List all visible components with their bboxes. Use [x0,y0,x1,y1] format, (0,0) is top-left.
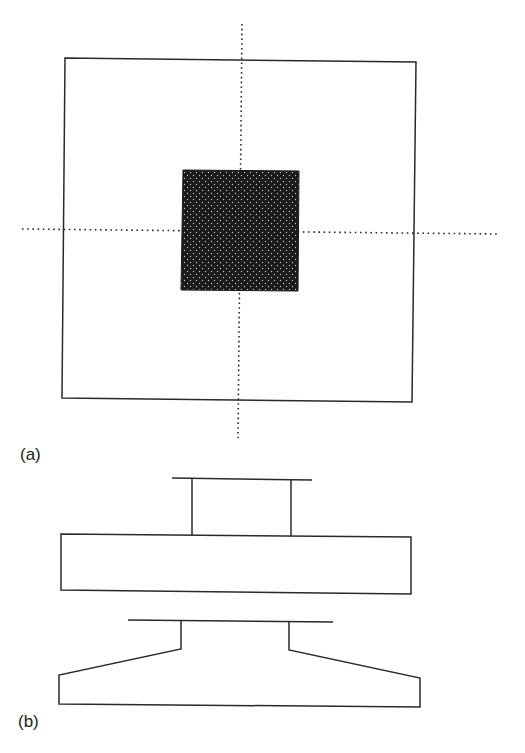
column-section [181,170,299,291]
panel-b-label: (b) [18,712,39,732]
footing-diagram [0,0,525,753]
cap-line [172,478,312,480]
footing-slab [61,534,411,594]
sloped-footing-elevation [59,620,420,707]
sloped-footing-outline [59,620,420,707]
flat-footing-elevation [61,478,411,594]
cap-line [128,620,333,622]
plan-view [22,24,497,438]
panel-a-label: (a) [20,445,41,465]
